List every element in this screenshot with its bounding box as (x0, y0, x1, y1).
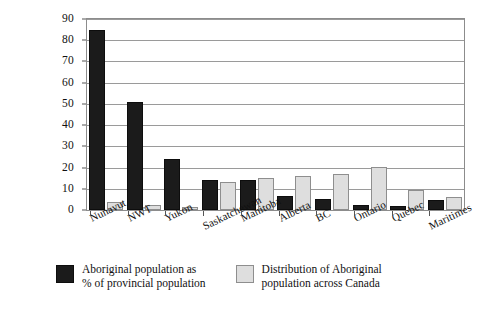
y-axis-tick-label: 30 (62, 141, 74, 153)
y-axis-tick-label: 20 (62, 162, 74, 174)
legend-swatch-dark (56, 265, 74, 283)
y-axis-tick-label: 10 (62, 183, 74, 195)
y-axis-tick-mark (82, 167, 86, 168)
legend-swatch-light (236, 265, 254, 283)
x-axis-category-labels: NunavutNWTYukonSaskatchewanManitobaAlber… (0, 212, 480, 260)
bar-group (87, 19, 125, 210)
x-axis-tick-mark (165, 211, 166, 216)
x-axis-tick-mark (429, 211, 430, 216)
bar (164, 159, 180, 210)
legend-label: Distribution of Aboriginal population ac… (262, 263, 382, 290)
x-axis-tick-mark (90, 211, 91, 216)
y-axis-tick-label: 60 (62, 77, 74, 89)
y-axis-tick-mark (82, 61, 86, 62)
bar-group (238, 19, 276, 210)
bars-layer (87, 19, 464, 210)
x-axis-tick-mark (392, 211, 393, 216)
legend-label: Aboriginal population as % of provincial… (82, 263, 206, 290)
bar-group (276, 19, 314, 210)
x-axis-tick-mark (316, 211, 317, 216)
y-axis-tick-mark (82, 19, 86, 20)
y-axis-tick-mark (82, 188, 86, 189)
bar-chart: 0102030405060708090 NunavutNWTYukonSaska… (0, 0, 480, 309)
y-axis-tick-mark (82, 125, 86, 126)
x-axis-tick-mark (279, 211, 280, 216)
chart-legend: Aboriginal population as % of provincial… (56, 263, 456, 303)
y-axis-tick-mark (82, 210, 86, 211)
y-axis-tick-mark (82, 40, 86, 41)
bar (202, 180, 218, 210)
legend-entry: Aboriginal population as % of provincial… (56, 263, 206, 303)
y-axis-tick-label: 70 (62, 56, 74, 68)
bar (89, 30, 105, 210)
bar-group (426, 19, 464, 210)
bar-group (351, 19, 389, 210)
y-axis-tick-mark (82, 146, 86, 147)
x-axis-tick-mark (128, 211, 129, 216)
y-axis-tick-label: 80 (62, 34, 74, 46)
y-axis-tick-label: 40 (62, 119, 74, 131)
bar-group (162, 19, 200, 210)
legend-entry: Distribution of Aboriginal population ac… (236, 263, 382, 303)
x-axis-tick-mark (354, 211, 355, 216)
y-axis-tick-mark (82, 82, 86, 83)
bar-group (389, 19, 427, 210)
bar (127, 102, 143, 210)
x-axis-tick-mark (203, 211, 204, 216)
y-axis-tick-label: 90 (62, 13, 74, 25)
bar-group (125, 19, 163, 210)
x-axis-tick-mark (241, 211, 242, 216)
bar-group (313, 19, 351, 210)
bar (333, 174, 349, 210)
bar (428, 200, 444, 210)
bar-group (200, 19, 238, 210)
y-axis-tick-mark (82, 103, 86, 104)
y-axis: 0102030405060708090 (0, 18, 82, 211)
y-axis-tick-label: 50 (62, 98, 74, 110)
